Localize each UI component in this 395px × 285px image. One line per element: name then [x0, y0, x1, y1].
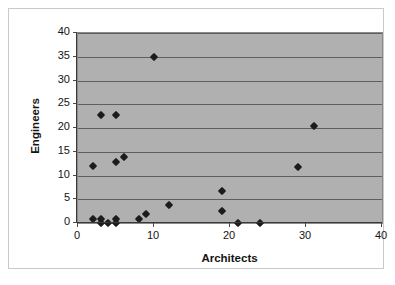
x-tick-mark: [229, 223, 230, 227]
x-tick-label: 40: [366, 230, 395, 241]
x-tick-label: 20: [214, 230, 244, 241]
x-tick-label: 10: [138, 230, 168, 241]
x-tick-mark: [77, 223, 78, 227]
x-tick-mark: [381, 223, 382, 227]
x-axis-title: Architects: [77, 252, 382, 264]
x-axis-ticks: 010203040: [9, 9, 383, 268]
x-tick-label: 0: [62, 230, 92, 241]
x-tick-mark: [305, 223, 306, 227]
x-tick-label: 30: [290, 230, 320, 241]
x-tick-mark: [153, 223, 154, 227]
chart-frame: Engineers 0510152025303540 010203040 Arc…: [8, 8, 384, 269]
